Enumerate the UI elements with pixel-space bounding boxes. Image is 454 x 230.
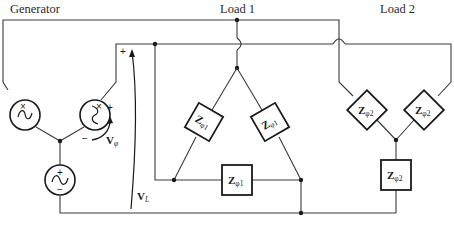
- load1-impedance-left: Zφ1: [185, 103, 223, 141]
- line-a-wire: [3, 20, 353, 96]
- phase-voltage-label: Vφ: [106, 134, 118, 148]
- ac-source-icon: ×: [80, 100, 110, 130]
- load1-delta: Zφ1 Zφ1 Zφ1: [172, 68, 303, 215]
- ac-source-icon: + −: [45, 165, 75, 195]
- generator-label: Generator: [10, 2, 61, 16]
- svg-text:+: +: [107, 102, 113, 113]
- junction-dot: [299, 178, 303, 182]
- generator-wye: × × + −: [10, 100, 110, 195]
- line-voltage-indicator: + VL: [120, 46, 149, 209]
- ac-source-icon: ×: [10, 100, 40, 130]
- neutral-node: [394, 138, 398, 142]
- svg-text:+: +: [120, 46, 126, 57]
- svg-text:−: −: [57, 184, 63, 195]
- junction-dot: [235, 18, 239, 22]
- load2-label: Load 2: [380, 2, 415, 16]
- junction-dot: [172, 178, 176, 182]
- svg-text:+: +: [57, 167, 63, 178]
- generator-neutral-node: [58, 139, 62, 143]
- junction-dot: [299, 211, 303, 215]
- three-phase-circuit-diagram: Generator Load 1 Load 2: [0, 0, 454, 230]
- line-voltage-label: VL: [137, 190, 149, 204]
- load1-label: Load 1: [220, 2, 255, 16]
- load2-wye: Zφ2 Zφ2 Zφ2: [347, 90, 444, 190]
- load1-left-feed: [153, 42, 174, 180]
- junction-dot: [153, 42, 157, 46]
- svg-text:×: ×: [96, 101, 102, 112]
- svg-text:−: −: [82, 133, 88, 144]
- load2-impedance-bottom: Zφ2: [381, 160, 411, 190]
- load1-impedance-right: Zφ1: [251, 103, 289, 141]
- line-b-wire: [101, 39, 451, 100]
- svg-text:×: ×: [20, 101, 26, 112]
- load1-impedance-bottom: Zφ1: [222, 165, 252, 195]
